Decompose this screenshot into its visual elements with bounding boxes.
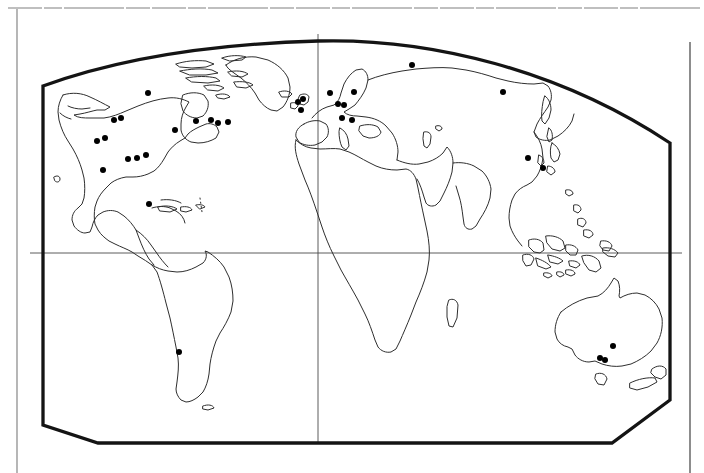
occurrence-dot [298, 107, 304, 113]
occurrence-dot [118, 115, 124, 121]
occurrence-dot [145, 90, 151, 96]
occurrence-dot [193, 118, 199, 124]
occurrence-dot [349, 117, 355, 123]
occurrence-dot [134, 155, 140, 161]
occurrence-dot [143, 152, 149, 158]
occurrence-dot [225, 119, 231, 125]
figure-canvas [0, 0, 704, 473]
page-background [0, 0, 704, 473]
occurrence-dot [610, 343, 616, 349]
occurrence-dot [300, 96, 306, 102]
occurrence-dot [339, 115, 345, 121]
occurrence-dot [335, 101, 341, 107]
occurrence-dot [215, 120, 221, 126]
occurrence-dot [500, 89, 506, 95]
occurrence-dot [100, 167, 106, 173]
occurrence-dot [409, 62, 415, 68]
occurrence-dot [125, 156, 131, 162]
occurrence-dot [176, 349, 182, 355]
occurrence-dot [341, 102, 347, 108]
occurrence-dot [351, 89, 357, 95]
occurrence-dot [146, 201, 152, 207]
occurrence-dot [208, 117, 214, 123]
occurrence-dot [172, 127, 178, 133]
occurrence-dot [102, 135, 108, 141]
occurrence-dot [111, 117, 117, 123]
world-map-figure [0, 0, 704, 473]
occurrence-dot [295, 99, 301, 105]
occurrence-dot [327, 90, 333, 96]
occurrence-dot [525, 155, 531, 161]
occurrence-dot [540, 165, 546, 171]
occurrence-dot [94, 138, 100, 144]
occurrence-dot [602, 357, 608, 363]
